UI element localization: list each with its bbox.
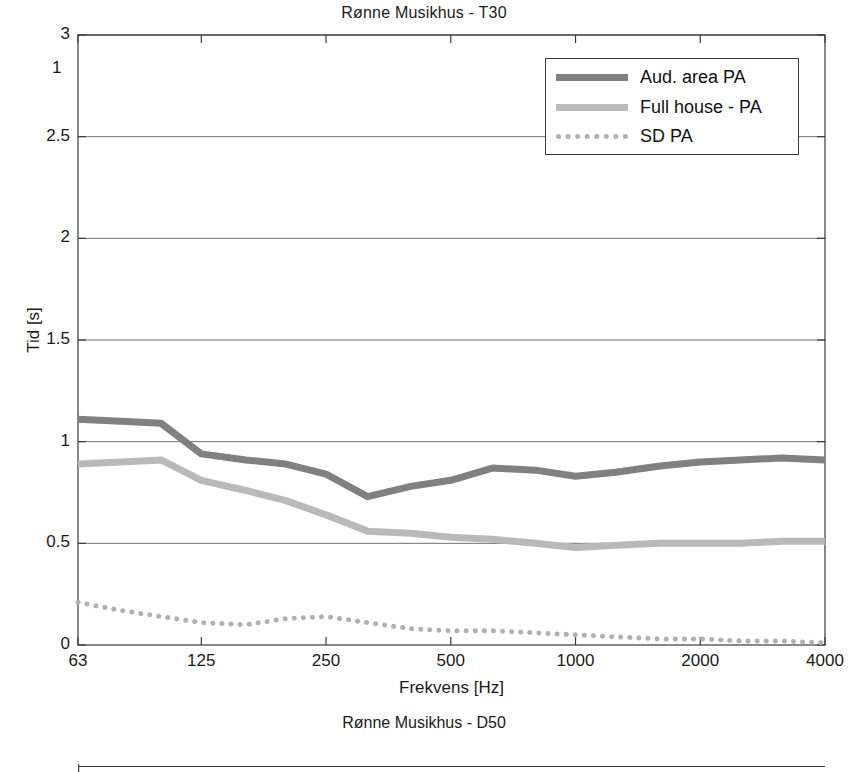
legend-swatch-aud-area-pa bbox=[556, 74, 628, 81]
x-tick-label: 125 bbox=[161, 651, 241, 671]
y-tick-label: 3 bbox=[10, 24, 70, 44]
legend-item-full-house-pa: Full house - PA bbox=[556, 93, 762, 121]
y-tick-label: 1.5 bbox=[10, 329, 70, 349]
legend-item-sd-pa: SD PA bbox=[556, 122, 693, 150]
legend: Aud. area PA Full house - PA SD PA bbox=[545, 58, 799, 155]
x-tick-label: 2000 bbox=[660, 651, 740, 671]
y-tick-label: 1 bbox=[10, 431, 70, 451]
data-series-layer bbox=[78, 419, 825, 643]
legend-swatch-full-house-pa bbox=[556, 104, 628, 111]
legend-swatch-sd-pa bbox=[556, 134, 628, 139]
x-tick-label: 250 bbox=[286, 651, 366, 671]
legend-label-sd-pa: SD PA bbox=[640, 126, 693, 147]
chart-d50-partial: Rønne Musikhus - D50 bbox=[0, 700, 848, 772]
legend-label-full-house-pa: Full house - PA bbox=[640, 97, 762, 118]
chart2-title: Rønne Musikhus - D50 bbox=[0, 714, 848, 732]
y-tick-label: 2 bbox=[10, 227, 70, 247]
legend-label-aud-area-pa: Aud. area PA bbox=[640, 67, 746, 88]
x-tick-label: 1000 bbox=[536, 651, 616, 671]
figure-page: Rønne Musikhus - T30 Tid [s] Frekvens [H… bbox=[0, 0, 848, 772]
x-tick-label: 500 bbox=[411, 651, 491, 671]
legend-item-aud-area-pa: Aud. area PA bbox=[556, 63, 746, 91]
x-tick-label: 63 bbox=[38, 651, 118, 671]
chart2-y-tick-label: 1 bbox=[52, 58, 61, 78]
x-tick-label: 4000 bbox=[785, 651, 848, 671]
y-tick-label: 2.5 bbox=[10, 126, 70, 146]
chart-t30: Rønne Musikhus - T30 Tid [s] Frekvens [H… bbox=[0, 0, 848, 700]
chart2-axes-top bbox=[78, 764, 848, 772]
x-axis-label: Frekvens [Hz] bbox=[78, 678, 825, 698]
y-tick-label: 0.5 bbox=[10, 532, 70, 552]
